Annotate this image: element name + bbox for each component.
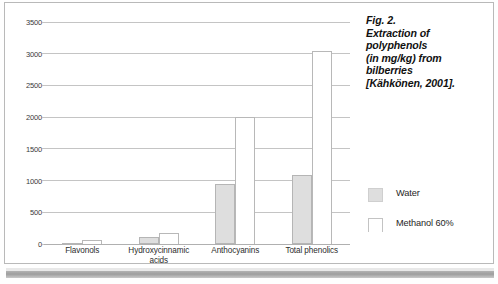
x-axis-label-total-phenolics: Total phenolics <box>274 246 351 256</box>
y-axis-tick-label: 1000 <box>8 177 42 186</box>
figure-caption-line: polyphenols <box>366 39 494 52</box>
legend-label: Water <box>396 188 420 198</box>
bar-methanol-60-hydroxycinnamic-acids <box>159 233 179 244</box>
x-axis-label-line: acids <box>121 256 198 266</box>
x-axis-label-hydroxycinnamic-acids: Hydroxycinnamicacids <box>121 246 198 266</box>
y-axis-tick-label: 500 <box>8 208 42 217</box>
legend-label: Methanol 60% <box>396 218 454 228</box>
bar-chart: 0500100015002000250030003500 FlavonolsHy… <box>6 4 356 262</box>
x-axis-label-line: Anthocyanins <box>197 246 274 256</box>
legend-swatch-icon <box>368 188 383 202</box>
y-axis-tick-label: 0 <box>8 240 42 249</box>
figure-caption: Fig. 2.Extraction ofpolyphenols(in mg/kg… <box>366 14 494 90</box>
y-axis-tick-label: 2500 <box>8 81 42 90</box>
figure-caption-line: Fig. 2. <box>366 14 494 27</box>
figure-caption-line: [Kähkönen, 2001]. <box>366 77 494 90</box>
bar-methanol-60-flavonols <box>82 240 102 244</box>
y-axis-tick-label: 3500 <box>8 18 42 27</box>
y-axis-tick-label: 3000 <box>8 50 42 59</box>
x-axis-label-line: Flavonols <box>44 246 121 256</box>
x-axis-label-flavonols: Flavonols <box>44 246 121 256</box>
scan-edge-bar <box>6 271 494 278</box>
plot-area <box>44 22 350 244</box>
gridline <box>44 22 350 23</box>
chart-legend: WaterMethanol 60% <box>366 186 494 246</box>
x-axis-label-line: Total phenolics <box>274 246 351 256</box>
gridline <box>44 148 350 149</box>
bar-water-flavonols <box>62 243 82 245</box>
y-axis-tick-label: 1500 <box>8 145 42 154</box>
x-axis-label-anthocyanins: Anthocyanins <box>197 246 274 256</box>
bar-methanol-60-total-phenolics <box>312 51 332 244</box>
bar-water-hydroxycinnamic-acids <box>139 237 159 244</box>
gridline <box>44 117 350 118</box>
bar-water-anthocyanins <box>215 184 235 244</box>
figure-caption-line: (in mg/kg) from <box>366 52 494 65</box>
legend-swatch-icon <box>368 218 383 232</box>
y-axis: 0500100015002000250030003500 <box>6 22 42 244</box>
legend-item-methanol-60: Methanol 60% <box>366 216 494 246</box>
bar-methanol-60-anthocyanins <box>235 117 255 244</box>
gridline <box>44 85 350 86</box>
y-axis-tick-label: 2000 <box>8 113 42 122</box>
gridline <box>44 53 350 54</box>
figure-caption-line: Extraction of <box>366 27 494 40</box>
bar-water-total-phenolics <box>292 175 312 244</box>
figure-caption-line: bilberries <box>366 64 494 77</box>
x-axis-label-line: Hydroxycinnamic <box>121 246 198 256</box>
legend-item-water: Water <box>366 186 494 216</box>
scanned-page: 0500100015002000250030003500 FlavonolsHy… <box>0 0 498 284</box>
